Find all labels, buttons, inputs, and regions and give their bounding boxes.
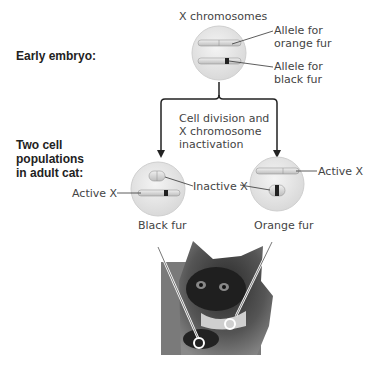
- allele-orange-line1: Allele for: [274, 24, 332, 37]
- process-line3: inactivation: [179, 138, 269, 151]
- adult-cat-label: Two cell populations in adult cat:: [16, 138, 84, 180]
- allele-black-label: Allele for black fur: [274, 60, 323, 86]
- allele-black-line2: black fur: [274, 73, 323, 86]
- left-active-x-label: Active X: [72, 187, 117, 200]
- adult-cat-label-line3: in adult cat:: [16, 166, 84, 180]
- orange-fur-label: Orange fur: [254, 219, 314, 232]
- process-line1: Cell division and: [179, 112, 269, 125]
- adult-cat-label-line1: Two cell: [16, 138, 84, 152]
- allele-orange-label: Allele for orange fur: [274, 24, 332, 50]
- black-fur-sample-marker: [194, 338, 204, 348]
- right-active-x-label: Active X: [318, 165, 363, 178]
- process-label: Cell division and X chromosome inactivat…: [179, 112, 269, 151]
- orange-fur-sample-marker: [225, 319, 235, 329]
- allele-orange-line2: orange fur: [274, 37, 332, 50]
- early-embryo-label: Early embryo:: [16, 49, 96, 63]
- allele-black-line1: Allele for: [274, 60, 323, 73]
- inactive-x-label: Inactive X: [193, 180, 248, 193]
- adult-cat-label-line2: populations: [16, 152, 84, 166]
- process-line2: X chromosome: [179, 125, 269, 138]
- black-fur-label: Black fur: [138, 219, 187, 232]
- x-chromosomes-title: X chromosomes: [179, 10, 267, 23]
